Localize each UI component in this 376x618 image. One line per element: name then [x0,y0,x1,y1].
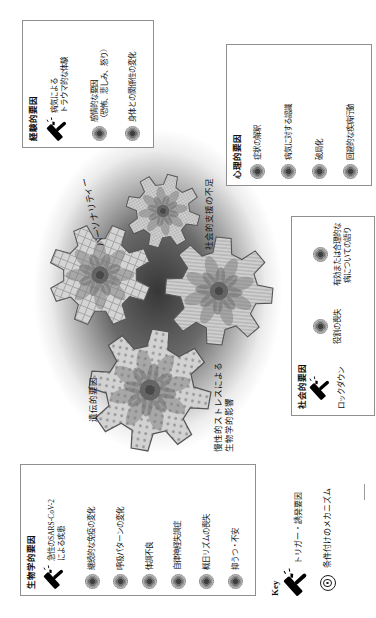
key-item-trigger: トリガー・誘発要因 [283,446,315,596]
list-item: 抑うつ・不安 [228,471,243,589]
list-item: 症状の解釈 [250,51,265,179]
mechanism-icon [142,574,157,589]
item-text: 症状の解釈 [253,125,263,160]
item-text: 感情的な要因 [90,45,100,122]
box-social-factors: 社会的要因 ロックダウン 役割の喪失 有効または合理的な病についての語り [291,216,375,416]
list-item: 病気によるトラウマ的な体験 [46,27,74,141]
item-text: 病についての語り [343,223,353,286]
box-psychological-factors: 心理的要因 症状の解釈 病気に対する認識 破局化 回避的な疾病行動 [226,44,372,186]
mechanism-icon [281,164,296,179]
key-item-label: トリガー・誘発要因 [294,492,304,564]
list-item: 急性のSARS-CoV-2による疾患 [43,471,71,589]
item-text: 有効または合理的な [333,223,343,286]
box-biological-title: 生物学的要因 [26,471,36,589]
mechanism-icon [113,574,128,589]
key-item-mechanism: 条件付けのメカニズム [320,446,336,596]
box-psychological-title: 心理的要因 [232,51,242,179]
hammer-icon [309,376,337,400]
list-item: 呼吸パターンの変化 [113,471,128,589]
hammer-icon [43,565,71,589]
item-text: （恐怖、悲しみ、怒り） [100,45,110,122]
item-text: ロックダウン [337,367,347,409]
item-text: 体調不良 [145,542,155,570]
key-item-label: 条件付けのメカニズム [323,488,333,568]
box-experiential-title: 経験的要因 [28,27,38,141]
item-text: による疾患 [57,499,67,561]
list-item: 回避的な疾病行動 [343,51,358,179]
item-text: トラウマ的な体験 [60,57,70,113]
gear-label-social-support: 社会的支援の不足 [202,178,214,250]
box-experiential-factors: 経験的要因 病気によるトラウマ的な体験 感情的な要因（恐怖、悲しみ、怒り） 身体… [22,20,154,148]
concentric-circles-icon [320,575,336,591]
list-item: 感情的な要因（恐怖、悲しみ、怒り） [90,27,110,141]
hammer-icon [46,117,74,141]
item-text: 病気に対する認識 [284,104,294,160]
item-text: 自律神経失調症 [173,521,183,570]
list-item: 身体との関係性の変化 [125,27,140,141]
list-item: 有効または合理的な病についての語り [309,223,353,286]
item-text: 急性のSARS-CoV-2 [47,499,57,561]
gear-label-genetic: 遺伝的要因 [86,377,98,422]
hammer-icon [283,568,315,596]
item-text: 身体との関係性の変化 [128,52,138,122]
mechanism-icon [343,164,358,179]
box-social-title: 社会的要因 [297,223,307,409]
mechanism-icon [125,126,140,141]
gear-genetic-factors [80,320,220,460]
key-title: Key [270,446,281,596]
mechanism-icon [312,164,327,179]
box-biological-factors: 生物学的要因 急性のSARS-CoV-2による疾患 継続的な免疫の変化 呼吸パタ… [20,464,256,596]
mechanism-icon [228,574,243,589]
mechanism-icon [313,247,328,262]
item-text: 概日リズムの喪失 [202,514,212,570]
item-text: 呼吸パターンの変化 [116,507,126,570]
gear-label-chronic-stress-line2: 生物学的影響 [224,362,235,452]
figure-stage: 遺伝的要因 パーソナリティー 社会的支援の不足 慢性的ストレスによる 生物学的影… [0,0,376,618]
list-item: 役割の喪失 [309,309,343,344]
list-item: 継続的な免疫の変化 [85,471,100,589]
item-text: 継続的な免疫の変化 [87,507,97,570]
list-item: 概日リズムの喪失 [199,471,214,589]
item-text: 回避的な疾病行動 [346,104,356,160]
item-text: 破局化 [315,139,325,160]
mechanism-icon [199,574,214,589]
gear-label-chronic-stress: 慢性的ストレスによる 生物学的影響 [213,362,236,452]
item-text: 抑うつ・不安 [231,528,241,570]
list-item: ロックダウン [309,367,347,409]
mechanism-icon [313,319,328,334]
key-legend: Key トリガー・誘発要因 条件付けのメカニズム [270,446,341,596]
mechanism-icon [92,126,107,141]
item-text: 病気による [50,57,60,113]
mechanism-icon [85,574,100,589]
item-text: 役割の喪失 [333,309,343,344]
gear-label-chronic-stress-line1: 慢性的ストレスによる [213,362,224,452]
gear-social-support [161,233,277,349]
gear-personality [118,166,208,256]
list-item: 病気に対する認識 [281,51,296,179]
mechanism-icon [171,574,186,589]
list-item: 破局化 [312,51,327,179]
mechanism-icon [250,164,265,179]
list-item: 体調不良 [142,471,157,589]
caption-rule [364,484,365,500]
list-item: 自律神経失調症 [171,471,186,589]
